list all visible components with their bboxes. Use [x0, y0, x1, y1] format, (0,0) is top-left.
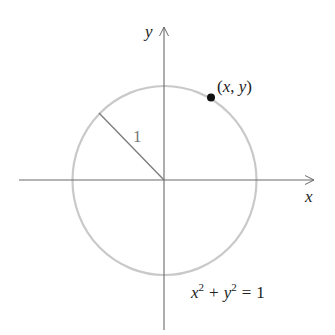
radius-label: 1: [133, 127, 142, 146]
point-marker: [207, 94, 215, 102]
x-axis-label: x: [304, 187, 313, 206]
equation-label: x2+y2=1: [190, 281, 265, 302]
radius-line: [99, 113, 164, 180]
point-label: (x, y): [217, 77, 252, 96]
y-axis-label: y: [143, 22, 153, 41]
unit-circle-diagram: y x 1 (x, y) x2+y2=1: [0, 0, 335, 335]
